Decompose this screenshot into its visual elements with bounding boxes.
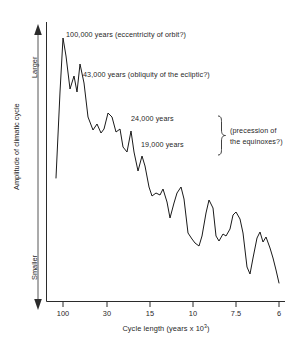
- chart-canvas: [0, 0, 293, 349]
- x-tick-label-2: 15: [146, 309, 154, 318]
- x-tick-label-4: 7.5: [231, 309, 242, 318]
- annotation-precession-line-1: (precession of: [230, 126, 277, 136]
- x-axis-title-base: Cycle length (years x 10: [122, 324, 204, 333]
- x-axis-title: Cycle length (years x 103): [122, 324, 209, 333]
- annotation-19k-years: 19,000 years: [141, 140, 184, 149]
- x-axis-title-tail: ): [207, 324, 210, 333]
- axis-lines: [47, 22, 286, 302]
- annotation-43k-years: 43,000 years (obliquity of the ecliptic?…: [83, 70, 210, 79]
- annotation-100k-years: 100,000 years (eccentricity of orbit?): [66, 30, 186, 39]
- x-tick-label-3: 10: [189, 309, 197, 318]
- x-tick-label-0: 100: [57, 309, 70, 318]
- chart-figure: 100 30 15 10 7.5 6 Cycle length (years x…: [0, 0, 293, 349]
- annotation-precession-line-2: the equinoxes?): [230, 137, 283, 147]
- precession-brace-icon: [218, 116, 226, 155]
- y-axis-title: Amplitude of climatic cycle: [12, 103, 21, 190]
- x-tick-label-1: 30: [103, 309, 111, 318]
- x-tick-label-5: 6: [277, 309, 281, 318]
- annotation-24k-years: 24,000 years: [131, 114, 174, 123]
- y-axis-smaller-label: Smaller: [30, 255, 39, 280]
- x-axis-ticks: [63, 302, 279, 308]
- y-axis-larger-label: Larger: [30, 57, 39, 78]
